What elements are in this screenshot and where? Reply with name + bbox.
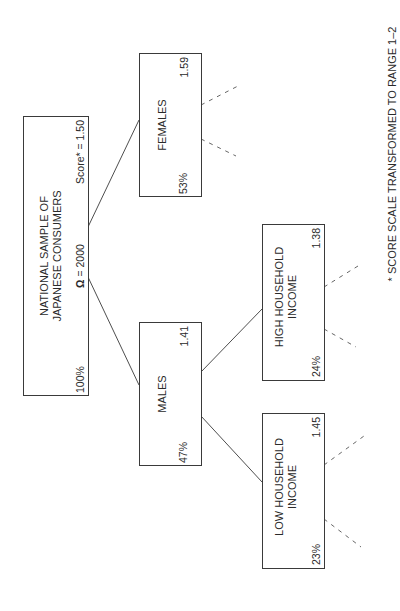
node-males-box (140, 323, 202, 466)
node-high-income-score: 1.38 (310, 228, 322, 249)
node-males-share: 47% (177, 442, 189, 463)
node-root-title-line2: JAPANESE CONSUMERS (51, 190, 63, 321)
node-females-score: 1.59 (178, 57, 190, 78)
node-females: FEMALES 53% 1.59 (140, 54, 202, 197)
node-low-income-score: 1.45 (310, 417, 322, 438)
segmentation-tree-diagram: NATIONAL SAMPLE OF JAPANESE CONSUMERS 10… (0, 0, 400, 611)
node-low-income-label-line1: LOW HOUSEHOLD (273, 438, 285, 536)
node-root-title-line1: NATIONAL SAMPLE OF (38, 196, 50, 316)
node-high-income-label-line1: HIGH HOUSEHOLD (273, 247, 285, 347)
node-high-income-share: 24% (310, 356, 322, 377)
node-root: NATIONAL SAMPLE OF JAPANESE CONSUMERS 10… (24, 117, 89, 396)
node-root-sample-size: Ω = 2000 (74, 244, 86, 288)
continuation-stub-females-lower (201, 139, 236, 156)
edge-males-low-income (201, 416, 262, 482)
node-root-share: 100% (74, 366, 86, 393)
node-females-box (140, 54, 202, 197)
footnote: * SCORE SCALE TRANSFORMED TO RANGE 1–2 (386, 27, 398, 282)
node-root-sample-size-value: = 2000 (74, 244, 86, 279)
node-females-label: FEMALES (156, 99, 168, 150)
node-males-label: MALES (156, 375, 168, 412)
node-high-income: HIGH HOUSEHOLD INCOME 24% 1.38 (263, 225, 325, 381)
continuation-stub-low-upper (324, 436, 364, 465)
node-low-income: LOW HOUSEHOLD INCOME 23% 1.45 (263, 414, 325, 569)
node-low-income-share: 23% (310, 544, 322, 565)
node-root-score: Score* = 1.50 (74, 120, 86, 184)
continuation-stub-low-lower (324, 519, 361, 547)
node-low-income-label-line2: INCOME (286, 465, 298, 509)
node-high-income-label-line2: INCOME (286, 275, 298, 319)
continuation-stub-high-upper (324, 266, 358, 287)
edge-root-females (88, 120, 139, 227)
node-males: MALES 47% 1.41 (140, 323, 202, 466)
edge-males-high-income (201, 309, 262, 372)
edge-root-males (88, 277, 139, 385)
node-females-share: 53% (177, 173, 189, 194)
node-males-score: 1.41 (178, 326, 190, 347)
continuation-stub-high-lower (324, 329, 356, 347)
continuation-stub-females-upper (201, 86, 238, 105)
omega-symbol: Ω (74, 279, 86, 287)
